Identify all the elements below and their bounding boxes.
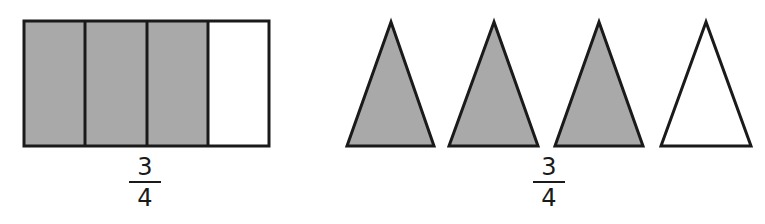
fraction-label-rectangle: 3 4 <box>125 155 165 210</box>
rect-part-1-shaded <box>24 21 85 146</box>
triangle-model <box>347 22 751 146</box>
fraction-numerator: 3 <box>125 155 165 179</box>
fraction-numerator: 3 <box>529 155 569 179</box>
rect-part-4-unshaded <box>208 21 269 146</box>
rect-part-2-shaded <box>85 21 147 146</box>
fraction-diagram <box>0 0 765 224</box>
triangle-4-unshaded <box>661 22 751 146</box>
fraction-label-triangles: 3 4 <box>529 155 569 210</box>
rect-part-3-shaded <box>147 21 208 146</box>
fraction-bar <box>533 181 565 183</box>
fraction-bar <box>129 181 161 183</box>
fraction-denominator: 4 <box>529 186 569 210</box>
triangle-1-shaded <box>347 22 434 146</box>
fraction-denominator: 4 <box>125 186 165 210</box>
rectangle-model <box>24 21 269 146</box>
triangle-2-shaded <box>449 22 538 146</box>
triangle-3-shaded <box>555 22 643 146</box>
